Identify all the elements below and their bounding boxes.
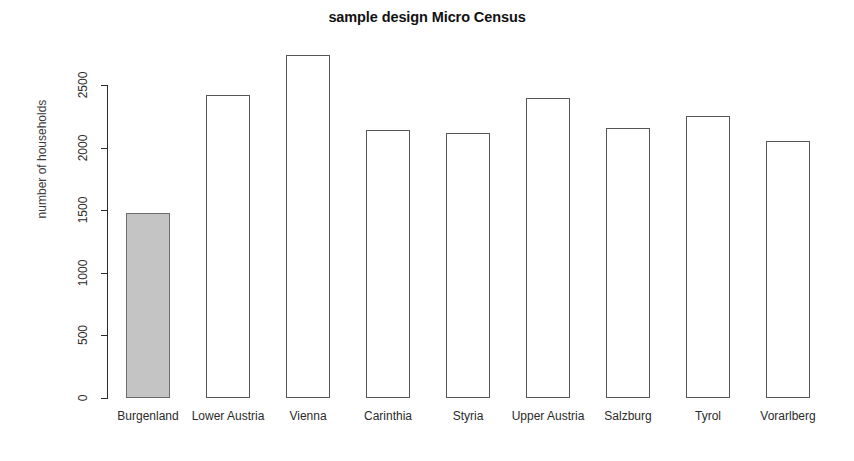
bar-styria[interactable] — [446, 133, 490, 398]
bar-vienna[interactable] — [286, 55, 330, 398]
bar-vorarlberg[interactable] — [766, 141, 810, 398]
bar-salzburg[interactable] — [606, 128, 650, 398]
y-tick-0 — [101, 398, 108, 399]
y-tick-2000 — [101, 148, 108, 149]
y-tick-1500 — [101, 210, 108, 211]
bar-carinthia[interactable] — [366, 130, 410, 398]
bar-tyrol[interactable] — [686, 116, 730, 398]
y-tick-1000 — [101, 273, 108, 274]
y-tick-label-2500: 2500 — [76, 65, 90, 105]
bar-upper-austria[interactable] — [526, 98, 570, 398]
plot-area: 05001000150020002500 BurgenlandLower Aus… — [0, 0, 854, 461]
bar-burgenland[interactable] — [126, 213, 170, 398]
y-tick-label-2000: 2000 — [76, 128, 90, 168]
bar-chart: sample design Micro Census number of hou… — [0, 0, 854, 461]
y-tick-2500 — [101, 85, 108, 86]
x-label-vorarlberg: Vorarlberg — [728, 408, 848, 424]
y-tick-label-1000: 1000 — [76, 253, 90, 293]
y-tick-500 — [101, 335, 108, 336]
bar-lower-austria[interactable] — [206, 95, 250, 398]
y-axis-line — [107, 85, 108, 398]
y-tick-label-1500: 1500 — [76, 190, 90, 230]
y-tick-label-500: 500 — [76, 315, 90, 355]
